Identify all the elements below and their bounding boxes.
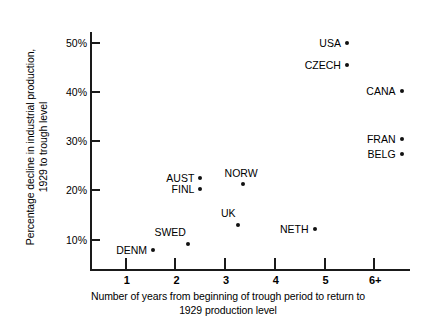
data-point[interactable]	[241, 182, 245, 186]
x-axis-label: Number of years from beginning of trough…	[38, 290, 418, 317]
x-axis-label-line-1: Number of years from beginning of trough…	[38, 290, 418, 304]
y-axis-tick-label: 10%	[47, 234, 87, 245]
x-axis-tick	[373, 258, 375, 269]
data-point-label: NETH	[280, 223, 309, 234]
x-axis-tick-label: 5	[311, 274, 341, 286]
data-point-label: USA	[319, 37, 341, 48]
x-axis-tick-label: 2	[161, 274, 191, 286]
y-axis-tick	[91, 239, 100, 241]
data-point-label: FRAN	[367, 133, 396, 144]
x-axis-tick	[174, 258, 176, 269]
data-point-label: CZECH	[305, 59, 341, 70]
data-point[interactable]	[198, 187, 202, 191]
x-axis-tick-label: 3	[211, 274, 241, 286]
scatter-chart: Percentage decline in industrial product…	[0, 0, 427, 335]
x-axis-tick	[125, 258, 127, 269]
x-axis-tick	[274, 258, 276, 269]
data-point[interactable]	[313, 227, 317, 231]
y-axis-tick-label: 50%	[47, 38, 87, 49]
x-axis-tick	[224, 258, 226, 269]
y-axis-tick	[91, 42, 100, 44]
data-point[interactable]	[345, 63, 349, 67]
x-axis-tick-label: 6+	[360, 274, 390, 286]
x-axis-tick	[324, 258, 326, 269]
y-axis-tick-labels: 10%20%30%40%50%	[45, 0, 87, 335]
y-axis-tick	[91, 189, 100, 191]
data-point[interactable]	[400, 137, 404, 141]
y-axis-spine	[90, 32, 92, 271]
x-axis-tick-label: 4	[261, 274, 291, 286]
data-point[interactable]	[400, 152, 404, 156]
data-point[interactable]	[151, 248, 155, 252]
x-axis-tick-label: 1	[112, 274, 142, 286]
data-point-label: BELG	[368, 149, 396, 160]
data-point-label: NORW	[225, 168, 258, 179]
x-axis-spine	[90, 269, 410, 271]
data-point-label: FINL	[172, 183, 195, 194]
data-point[interactable]	[186, 242, 190, 246]
data-point[interactable]	[198, 176, 202, 180]
y-axis-tick	[91, 91, 100, 93]
y-axis-label-line-1: Percentage decline in industrial product…	[24, 22, 37, 272]
data-point[interactable]	[345, 41, 349, 45]
data-point-label: UK	[221, 208, 236, 219]
y-axis-tick-label: 30%	[47, 136, 87, 147]
data-point-label: SWED	[154, 227, 186, 238]
data-point[interactable]	[236, 223, 240, 227]
data-point-label: DENM	[116, 245, 147, 256]
y-axis-tick	[91, 140, 100, 142]
data-point-label: CANA	[366, 85, 395, 96]
y-axis-tick-label: 20%	[47, 185, 87, 196]
x-axis-label-line-2: 1929 production level	[38, 304, 418, 318]
y-axis-tick-label: 40%	[47, 87, 87, 98]
data-point[interactable]	[400, 89, 404, 93]
